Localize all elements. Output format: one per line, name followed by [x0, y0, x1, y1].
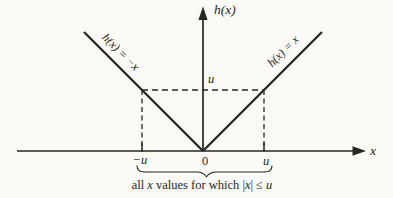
x-axis-arrowhead-icon	[353, 146, 367, 155]
left-arm-line	[84, 32, 203, 151]
caption-text-1: all	[132, 178, 148, 192]
absolute-value-function-figure: h(x) x u 0 −u u h(x) = −x h(x) = x all x…	[0, 0, 393, 198]
caption-text-2: values for which |	[153, 178, 245, 192]
caption: all x values for which |x| ≤ u	[132, 178, 273, 192]
caption-text-3: | ≤	[250, 178, 266, 192]
right-arm-line	[203, 32, 322, 151]
y-axis-label: h(x)	[214, 3, 236, 17]
origin-label: 0	[202, 155, 208, 168]
y-axis-arrowhead-icon	[198, 7, 207, 21]
graph-canvas	[0, 0, 393, 198]
x-neg-u-label: −u	[133, 154, 148, 167]
x-u-label: u	[263, 155, 269, 168]
y-u-label: u	[208, 73, 214, 86]
caption-var-u: u	[266, 178, 272, 192]
x-axis-label: x	[370, 144, 376, 158]
